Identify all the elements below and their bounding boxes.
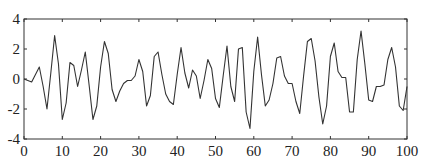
plot-area-frame	[24, 19, 407, 139]
x-tick-label: 0	[20, 143, 28, 159]
x-axis-tick-labels: 0102030405060708090100	[20, 143, 418, 159]
x-tick-label: 90	[361, 143, 376, 159]
y-tick-label: 4	[13, 11, 21, 27]
x-tick-label: 40	[170, 143, 185, 159]
line-chart: 0102030405060708090100 -4-2024	[0, 0, 424, 164]
x-tick-label: 80	[323, 143, 338, 159]
y-tick-label: 2	[13, 41, 21, 57]
x-tick-label: 20	[93, 143, 108, 159]
y-axis-tick-labels: -4-2024	[8, 11, 21, 147]
x-tick-label: 100	[396, 143, 419, 159]
axis-ticks	[24, 19, 407, 139]
y-tick-label: -2	[8, 101, 21, 117]
y-tick-label: 0	[13, 71, 21, 87]
x-tick-label: 70	[285, 143, 300, 159]
x-tick-label: 60	[246, 143, 261, 159]
x-tick-label: 30	[131, 143, 146, 159]
data-series-line	[24, 31, 407, 129]
y-tick-label: -4	[8, 131, 21, 147]
x-tick-label: 50	[208, 143, 223, 159]
x-tick-label: 10	[55, 143, 70, 159]
